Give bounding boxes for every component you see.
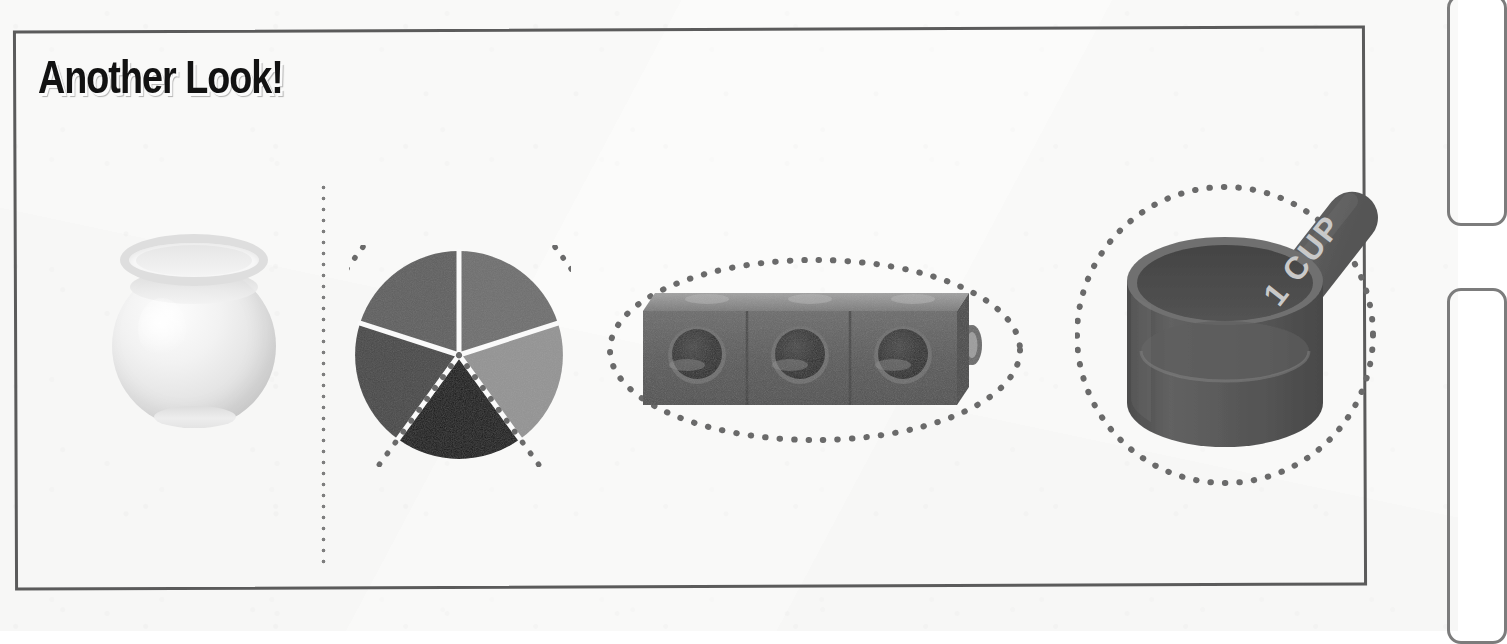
fish-bowl-label: Fish bowl	[104, 214, 105, 215]
fish-bowl-rim-inner	[136, 245, 252, 276]
page-title: Another Look!	[38, 54, 283, 100]
cube-2	[746, 293, 866, 405]
fish-bowl-illustration: Fish bowl	[104, 214, 284, 434]
cube-1	[643, 293, 763, 405]
connecting-cubes-illustration: Three connecting cubes circled	[600, 255, 1030, 445]
measuring-cup-svg: 1 CUP One cup measuring cup circled	[1075, 175, 1395, 495]
measuring-cup-illustration: 1 CUP One cup measuring cup circled	[1075, 175, 1395, 495]
vertical-dotted-divider	[321, 182, 326, 564]
page-edge-box-top	[1447, 0, 1507, 226]
connecting-cubes-svg: Three connecting cubes circled	[600, 255, 1030, 445]
measuring-cup-sheen	[1131, 295, 1151, 422]
cube-3	[849, 293, 969, 405]
pie-chart-svg: Circle divided into fifths	[349, 245, 571, 467]
cubes-group	[643, 293, 982, 405]
pie-chart-illustration: Circle divided into fifths	[349, 245, 571, 467]
fish-bowl-highlight	[138, 298, 186, 360]
page-edge-box-bottom	[1447, 288, 1507, 644]
fish-bowl-base	[154, 406, 236, 428]
measuring-cup-group	[1127, 181, 1388, 447]
